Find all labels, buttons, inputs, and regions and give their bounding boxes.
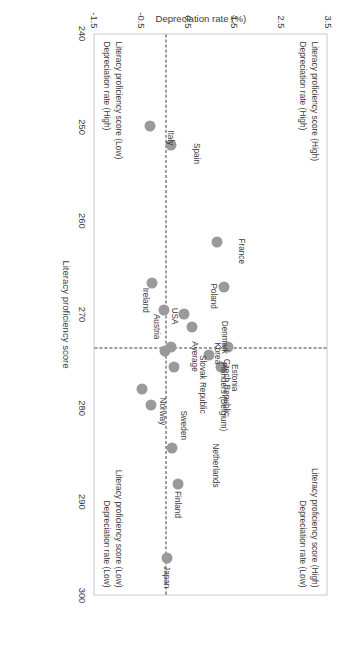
x-axis-tick-label: 250 (76, 112, 87, 142)
data-point-label: Ireland (140, 287, 148, 312)
x-axis-tick-label: 240 (76, 18, 87, 48)
data-point (168, 361, 179, 372)
data-point (166, 442, 177, 453)
quadrant-caption-line: Literacy proficiency score (Low) (112, 41, 124, 159)
data-point-label: Denmark (219, 320, 227, 353)
data-point-label: Italy (165, 130, 173, 145)
quadrant-caption-line: Literacy proficiency score (Low) (112, 469, 124, 587)
x-axis-tick-label: 290 (76, 486, 87, 516)
quadrant-caption-line: Literacy proficiency score (High) (308, 467, 320, 587)
data-point-label: Poland (208, 283, 216, 309)
data-point-label: Flanders (Belgium) (218, 362, 226, 431)
y-axis-tick-label: -0.5 (135, 0, 146, 28)
x-axis-tick-label: 280 (76, 393, 87, 423)
plot-area: Literacy proficiency score (High)Depreci… (93, 33, 327, 595)
rotated-chart-container: Literacy proficiency score (High)Depreci… (0, 0, 351, 672)
data-point-label: Average (188, 341, 196, 371)
data-point (218, 281, 229, 292)
data-point (161, 552, 172, 563)
x-axis-tick-label: 260 (76, 205, 87, 235)
quadrant-caption-bottom-left: Literacy proficiency score (Low)Deprecia… (100, 41, 124, 159)
data-point-label: Norway (157, 397, 165, 425)
data-point (136, 383, 147, 394)
data-point-label: Spain (190, 143, 198, 164)
data-point-label: USA (169, 307, 177, 324)
quadrant-caption-line: Depreciation rate (High) (100, 41, 112, 159)
data-point-label: Finland (171, 491, 179, 518)
quadrant-caption-bottom-right: Literacy proficiency score (Low)Deprecia… (100, 469, 124, 587)
y-axis-tick-label: 2.5 (275, 0, 286, 28)
x-axis-tick-label: 300 (76, 580, 87, 610)
data-point (146, 277, 157, 288)
data-point (165, 341, 176, 352)
data-point-label: Sweden (178, 410, 186, 440)
data-point-label: France (236, 238, 244, 263)
data-point (178, 308, 189, 319)
y-axis-tick-label: -1.5 (88, 0, 99, 28)
x-axis-tick-label: 270 (76, 299, 87, 329)
quadrant-caption-line: Depreciation rate (High) (296, 41, 308, 161)
quadrant-caption-line: Literacy proficiency score (High) (308, 41, 320, 161)
data-point-label: Austria (151, 313, 159, 338)
y-axis-title: Depreciation rate (%) (155, 12, 246, 23)
x-axis-title: Literacy proficiency score (60, 33, 71, 595)
data-point (186, 321, 197, 332)
data-point (211, 236, 222, 247)
data-point (172, 478, 183, 489)
quadrant-caption-top-left: Literacy proficiency score (High)Depreci… (296, 41, 320, 161)
quadrant-caption-line: Depreciation rate (Low) (296, 467, 308, 587)
data-point (145, 399, 156, 410)
data-point-label: Korea (212, 342, 220, 364)
reference-line-vertical (94, 347, 326, 348)
chart-canvas: Literacy proficiency score (High)Depreci… (0, 0, 351, 672)
data-point (144, 120, 155, 131)
y-axis-tick-label: 3.5 (322, 0, 333, 28)
data-point-label: Netherlands (209, 443, 217, 487)
data-point-label: Japan (161, 566, 169, 588)
quadrant-caption-line: Depreciation rate (Low) (100, 469, 112, 587)
quadrant-caption-top-right: Literacy proficiency score (High)Depreci… (296, 467, 320, 587)
